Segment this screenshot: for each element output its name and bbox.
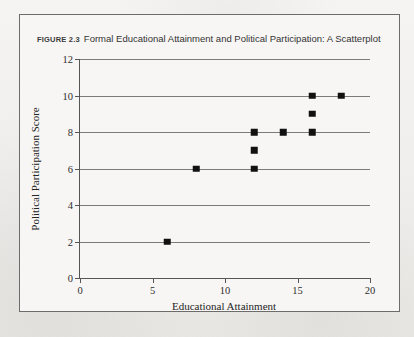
y-axis-tick xyxy=(75,169,80,170)
y-axis-tick-label: 10 xyxy=(63,90,74,101)
data-point xyxy=(251,129,258,136)
y-axis-tick-label: 6 xyxy=(68,163,73,174)
y-axis-tick xyxy=(75,132,80,133)
data-point xyxy=(251,147,258,154)
y-axis-tick-label: 4 xyxy=(68,200,73,211)
y-gridline xyxy=(80,96,370,97)
y-axis-tick xyxy=(75,242,80,243)
y-gridline xyxy=(80,59,370,60)
y-axis-title-text: Political Participation Score xyxy=(29,107,41,230)
x-axis-tick xyxy=(370,278,371,283)
x-axis-title: Educational Attainment xyxy=(79,300,369,312)
data-point xyxy=(280,129,287,136)
scatterplot: Political Participation Score 0246810120… xyxy=(20,15,401,313)
data-point xyxy=(251,165,258,172)
y-axis-tick-label: 0 xyxy=(68,273,73,284)
y-gridline xyxy=(80,132,370,133)
y-axis-tick-label: 8 xyxy=(68,127,73,138)
data-point xyxy=(338,92,345,99)
x-axis-tick-label: 15 xyxy=(292,285,303,296)
data-point xyxy=(309,111,316,118)
y-axis-tick-label: 2 xyxy=(68,236,73,247)
plot-area: 02468101205101520 xyxy=(79,59,370,279)
y-gridline xyxy=(80,242,370,243)
data-point xyxy=(309,129,316,136)
y-axis-title: Political Participation Score xyxy=(28,59,42,278)
x-axis-tick-label: 10 xyxy=(220,285,231,296)
y-gridline xyxy=(80,205,370,206)
y-axis-tick xyxy=(75,59,80,60)
y-gridline xyxy=(80,169,370,170)
x-axis-tick xyxy=(80,278,81,283)
x-axis-tick xyxy=(225,278,226,283)
y-axis-tick xyxy=(75,205,80,206)
x-axis-tick-label: 20 xyxy=(365,285,376,296)
x-axis-tick-label: 0 xyxy=(77,285,82,296)
y-axis-tick-label: 12 xyxy=(63,54,74,65)
data-point xyxy=(164,238,171,245)
x-axis-title-text: Educational Attainment xyxy=(172,300,276,312)
x-axis-tick xyxy=(153,278,154,283)
y-axis-tick xyxy=(75,96,80,97)
data-point xyxy=(193,165,200,172)
data-point xyxy=(309,92,316,99)
x-axis-tick xyxy=(298,278,299,283)
figure-container: FIGURE 2.3Formal Educational Attainment … xyxy=(19,14,400,312)
x-axis-tick-label: 5 xyxy=(150,285,155,296)
